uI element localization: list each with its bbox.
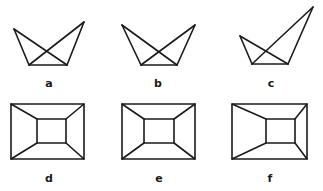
panel-label: d [45,172,53,185]
corner-connector-bottom-right [174,143,195,159]
left-diagonal [240,36,288,64]
figure-panel-f: f [232,104,307,185]
corner-connector-bottom-left [11,143,37,159]
panel-label: c [268,77,275,90]
corner-connector-top-right [66,104,84,119]
inner-rectangle [144,119,174,143]
corner-connector-bottom-left [232,143,266,159]
right-edge [288,7,313,64]
figure-panel-a: a [14,22,84,90]
panel-label: a [45,77,52,90]
figure-panel-d: d [11,104,84,185]
figure-panel-b: b [122,25,195,90]
corner-connector-bottom-left [122,143,144,159]
corner-connector-bottom-right [295,143,307,159]
corner-connector-bottom-right [66,143,84,159]
panel-label: e [155,172,162,185]
corner-connector-top-left [11,104,37,119]
right-diagonal [252,7,313,64]
figure-panel-e: e [122,104,195,185]
figure-canvas: abcdef [0,0,323,191]
corner-connector-top-right [174,104,195,119]
panel-label: f [268,172,273,185]
corner-connector-top-left [232,104,266,119]
corner-connector-top-left [122,104,144,119]
inner-rectangle [37,119,66,143]
panel-label: b [154,77,162,90]
figure-panel-c: c [240,7,313,90]
corner-connector-top-right [295,104,307,119]
inner-rectangle [266,119,295,143]
